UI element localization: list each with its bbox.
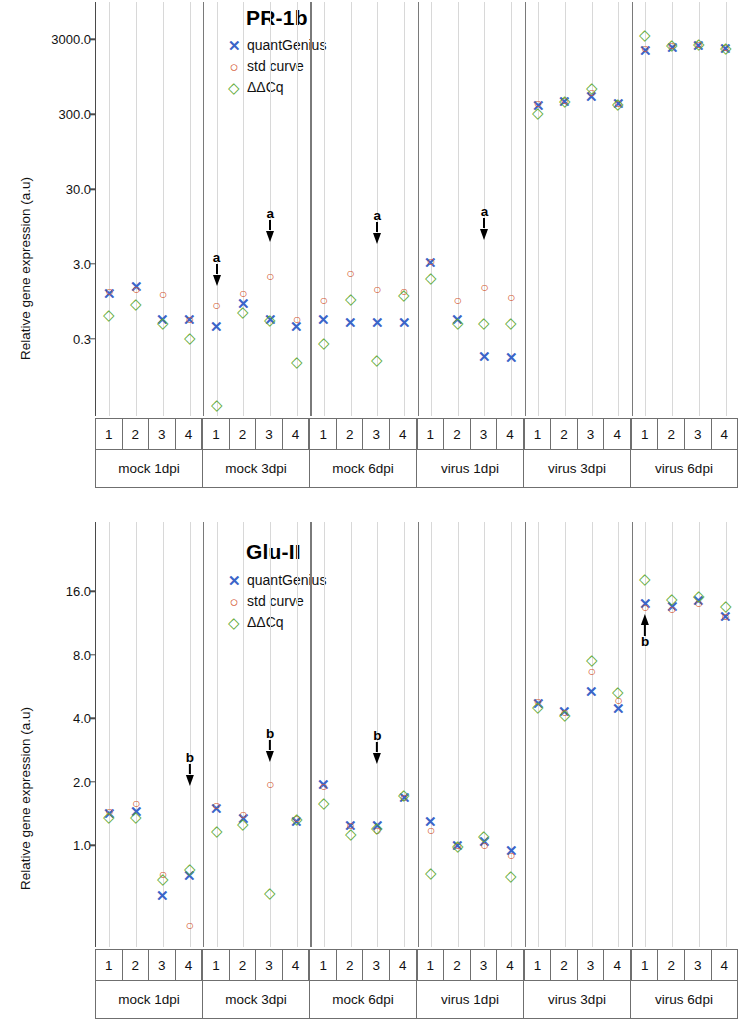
group-separator — [203, 522, 204, 947]
chart-panel-pr1b: Relative gene expression (a.u) PR-1b ✕ q… — [0, 0, 738, 500]
grid-line — [243, 522, 244, 947]
group-separator — [632, 2, 633, 416]
data-point: ◇ — [478, 315, 490, 330]
data-point: ◇ — [130, 808, 142, 823]
grid-line — [324, 2, 325, 416]
data-point: ◇ — [532, 105, 544, 120]
data-point: ◇ — [157, 315, 169, 330]
x-group-label: mock 1dpi — [95, 450, 203, 487]
x-group-label: mock 6dpi — [310, 450, 417, 487]
figure-page: Relative gene expression (a.u) PR-1b ✕ q… — [0, 0, 738, 1027]
x-tick-replicate: 2 — [551, 950, 578, 980]
x-tick-replicate: 1 — [309, 950, 337, 980]
x-tick-replicate: 2 — [123, 419, 150, 449]
grid-line — [190, 2, 191, 416]
x-tick-replicate: 3 — [363, 419, 390, 449]
annotation-arrow: a — [480, 206, 488, 240]
group-separator — [632, 522, 633, 947]
data-point: ✕ — [156, 888, 169, 903]
data-point: ○ — [212, 798, 220, 812]
chart-title-glu2: Glu-II — [246, 540, 301, 564]
data-point: ◇ — [612, 683, 624, 698]
data-point: ◇ — [237, 815, 249, 830]
grid-line — [324, 522, 325, 947]
legend-label-ddcq: ΔΔCq — [247, 79, 284, 95]
x-axis-replicates-top: 123412341234123412341234 — [95, 418, 738, 450]
plot-area-pr1b: PR-1b ✕ quantGenius ○ std curve ◇ ΔΔCq 3… — [95, 2, 738, 416]
x-tick-replicate: 4 — [712, 419, 738, 449]
y-tick-mark — [90, 338, 96, 339]
grid-line — [726, 2, 727, 416]
x-tick-replicate: 2 — [230, 419, 257, 449]
group-separator — [310, 522, 311, 947]
x-tick-replicate: 4 — [390, 419, 417, 449]
data-point: ◇ — [371, 820, 383, 835]
grid-line — [431, 2, 432, 416]
x-axis-replicates-bottom: 123412341234123412341234 — [95, 949, 738, 981]
data-point: ◇ — [720, 597, 732, 612]
x-tick-replicate: 4 — [283, 419, 310, 449]
x-tick-replicate: 1 — [417, 419, 445, 449]
legend-marker-x-icon: ✕ — [224, 573, 244, 588]
x-group-label: mock 6dpi — [310, 981, 417, 1018]
data-point: ◇ — [291, 810, 303, 825]
data-point: ◇ — [184, 329, 196, 344]
grid-line — [645, 2, 646, 416]
data-point: ◇ — [425, 864, 437, 879]
data-point: ◇ — [318, 335, 330, 350]
data-point: ○ — [239, 286, 247, 300]
x-tick-replicate: 3 — [149, 950, 176, 980]
grid-line — [726, 522, 727, 947]
x-group-label: virus 6dpi — [631, 981, 738, 1018]
annotation-arrow: a — [213, 252, 221, 286]
y-tick-mark — [90, 39, 96, 40]
grid-line — [351, 2, 352, 416]
data-point: ◇ — [505, 315, 517, 330]
data-point: ◇ — [291, 354, 303, 369]
data-point: ◇ — [612, 95, 624, 110]
data-point: ✕ — [210, 318, 223, 333]
x-tick-replicate: 2 — [230, 950, 257, 980]
data-point: ◇ — [318, 795, 330, 810]
x-tick-replicate: 4 — [712, 950, 738, 980]
x-tick-replicate: 4 — [604, 950, 631, 980]
grid-line — [297, 522, 298, 947]
x-axis-groups-bottom: mock 1dpimock 3dpimock 6dpivirus 1dpivir… — [95, 981, 738, 1019]
data-point: ◇ — [452, 838, 464, 853]
group-separator — [418, 2, 419, 416]
annotation-arrow: b — [373, 730, 381, 764]
data-point: ◇ — [639, 570, 651, 585]
y-tick-mark — [90, 114, 96, 115]
data-point: ◇ — [478, 827, 490, 842]
data-point: ○ — [159, 287, 167, 301]
data-point: ✕ — [317, 312, 330, 327]
grid-line — [672, 522, 673, 947]
grid-line — [136, 2, 137, 416]
grid-line — [404, 2, 405, 416]
annotation-arrow: a — [373, 210, 381, 244]
data-point: ○ — [319, 293, 327, 307]
legend-label-stdcurve: std curve — [247, 58, 304, 74]
x-tick-replicate: 2 — [658, 419, 685, 449]
data-point: ◇ — [371, 352, 383, 367]
legend-marker-circle-icon: ○ — [224, 59, 244, 74]
x-tick-replicate: 3 — [149, 419, 176, 449]
x-tick-replicate: 1 — [524, 419, 552, 449]
data-point: ◇ — [666, 591, 678, 606]
grid-line — [672, 2, 673, 416]
x-group-label: virus 3dpi — [524, 450, 631, 487]
data-point: ◇ — [666, 37, 678, 52]
grid-line — [565, 522, 566, 947]
data-point: ◇ — [559, 706, 571, 721]
data-point: ○ — [427, 823, 435, 837]
data-point: ◇ — [505, 868, 517, 883]
y-tick-mark — [90, 845, 96, 846]
data-point: ◇ — [398, 787, 410, 802]
grid-line — [565, 2, 566, 416]
data-point: ◇ — [130, 296, 142, 311]
data-point: ◇ — [398, 286, 410, 301]
x-tick-replicate: 4 — [497, 950, 524, 980]
group-separator — [525, 2, 526, 416]
x-group-label: virus 6dpi — [631, 450, 738, 487]
data-point: ✕ — [344, 315, 357, 330]
